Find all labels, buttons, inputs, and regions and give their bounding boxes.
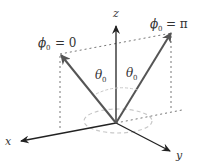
theta-arc <box>96 88 138 94</box>
z-axis-label: z <box>112 7 119 20</box>
spherical-angle-diagram: z x y ϕ 0 = 0 ϕ 0 = π θ 0 θ 0 <box>0 0 200 166</box>
vector-phi0-pi <box>116 33 171 123</box>
base-connector-dotted <box>116 110 182 123</box>
svg-text:= π: = π <box>166 17 188 31</box>
y-axis <box>116 123 170 151</box>
svg-text:ϕ: ϕ <box>150 17 158 31</box>
vector-phi0-zero <box>61 55 116 123</box>
svg-text:= 0: = 0 <box>55 36 77 50</box>
svg-text:ϕ: ϕ <box>38 36 46 50</box>
phi0-pi-label: ϕ 0 = π <box>150 17 188 33</box>
theta-left-label: θ 0 <box>95 68 106 84</box>
svg-text:0: 0 <box>102 76 106 84</box>
x-axis <box>21 123 116 141</box>
x-axis-label: x <box>5 135 12 148</box>
svg-text:0: 0 <box>46 44 50 52</box>
y-axis-label: y <box>175 149 183 162</box>
svg-text:0: 0 <box>133 74 137 82</box>
phi0-zero-label: ϕ 0 = 0 <box>38 36 77 52</box>
theta-right-label: θ 0 <box>126 66 137 82</box>
svg-text:0: 0 <box>158 25 162 33</box>
